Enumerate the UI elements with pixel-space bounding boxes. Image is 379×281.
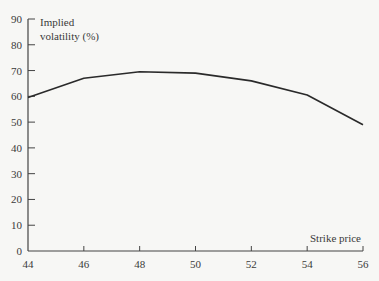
y-tick-label: 80: [11, 39, 23, 51]
y-axis-title-line2: volatility (%): [40, 30, 99, 43]
y-tick-label: 50: [11, 116, 23, 128]
x-tick-label: 54: [302, 258, 314, 270]
x-tick-label: 46: [78, 258, 90, 270]
x-axis: 44464850525456: [23, 246, 370, 270]
volatility-smile-chart: 0102030405060708090 44464850525456 Impli…: [0, 0, 379, 281]
axis-titles: Implied volatility (%) Strike price: [40, 16, 361, 244]
y-tick-label: 60: [11, 90, 23, 102]
data-series: [28, 72, 363, 125]
implied-volatility-line: [28, 72, 363, 125]
x-axis-title: Strike price: [310, 232, 361, 244]
y-axis: 0102030405060708090: [11, 13, 35, 257]
y-tick-label: 70: [11, 65, 23, 77]
y-tick-label: 40: [11, 142, 23, 154]
y-tick-label: 90: [11, 13, 23, 25]
y-tick-label: 10: [11, 219, 23, 231]
y-axis-title-line1: Implied: [40, 16, 75, 28]
x-tick-label: 52: [246, 258, 257, 270]
x-tick-label: 48: [134, 258, 146, 270]
y-tick-label: 30: [11, 168, 23, 180]
x-tick-label: 50: [190, 258, 202, 270]
y-tick-label: 0: [17, 245, 23, 257]
x-tick-label: 44: [23, 258, 35, 270]
x-tick-label: 56: [358, 258, 370, 270]
y-tick-label: 20: [11, 193, 23, 205]
